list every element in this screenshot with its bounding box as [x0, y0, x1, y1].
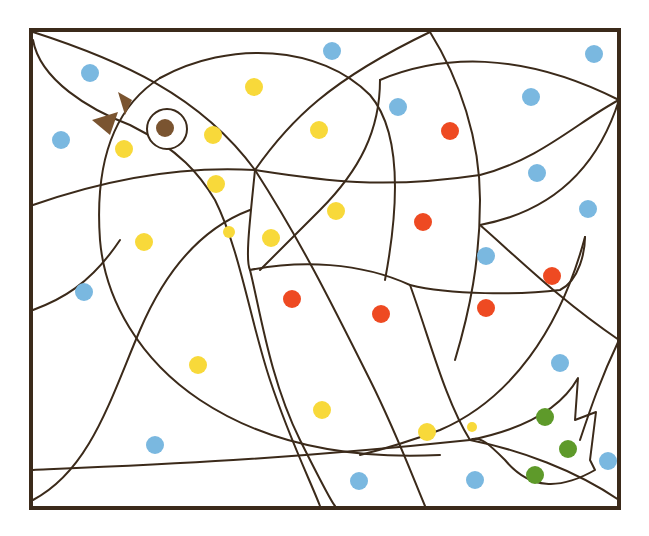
yellow-dot — [135, 233, 153, 251]
yellow-dot — [115, 140, 133, 158]
eye-pupil — [156, 119, 174, 137]
blue-dot — [599, 452, 617, 470]
yellow-dot — [207, 175, 225, 193]
yellow-dot — [223, 226, 235, 238]
yellow-dot — [262, 229, 280, 247]
blue-dot — [466, 471, 484, 489]
yellow-dot — [310, 121, 328, 139]
red-dot — [477, 299, 495, 317]
yellow-dot — [418, 423, 436, 441]
green-dot — [536, 408, 554, 426]
blue-dot — [528, 164, 546, 182]
yellow-dot — [245, 78, 263, 96]
blue-dot — [81, 64, 99, 82]
red-dot — [441, 122, 459, 140]
yellow-dot — [467, 422, 477, 432]
red-dot — [283, 290, 301, 308]
blue-dot — [477, 247, 495, 265]
blue-dot — [146, 436, 164, 454]
green-dot — [559, 440, 577, 458]
green-dot — [526, 466, 544, 484]
blue-dot — [323, 42, 341, 60]
blue-dot — [585, 45, 603, 63]
red-dot — [414, 213, 432, 231]
yellow-dot — [327, 202, 345, 220]
red-dot — [372, 305, 390, 323]
blue-dot — [551, 354, 569, 372]
blue-dot — [350, 472, 368, 490]
bird-coloring-illustration — [0, 0, 649, 536]
red-dot — [543, 267, 561, 285]
blue-dot — [75, 283, 93, 301]
blue-dot — [522, 88, 540, 106]
blue-dot — [52, 131, 70, 149]
yellow-dot — [204, 126, 222, 144]
yellow-dot — [313, 401, 331, 419]
blue-dot — [579, 200, 597, 218]
blue-dot — [389, 98, 407, 116]
yellow-dot — [189, 356, 207, 374]
